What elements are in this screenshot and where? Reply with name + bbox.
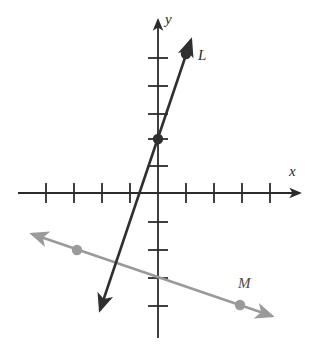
coordinate-plot-svg	[0, 0, 320, 352]
line-L-label: L	[198, 48, 206, 63]
line-L	[100, 40, 191, 310]
coordinate-plane-figure: y x L M	[0, 0, 320, 352]
x-axis-label: x	[289, 164, 296, 179]
point-M-right	[235, 300, 245, 310]
line-M-label: M	[238, 276, 251, 291]
point-L-upper	[181, 49, 191, 59]
y-axis-label: y	[165, 12, 172, 27]
point-M-left	[72, 245, 82, 255]
point-L-intercept	[153, 134, 163, 144]
